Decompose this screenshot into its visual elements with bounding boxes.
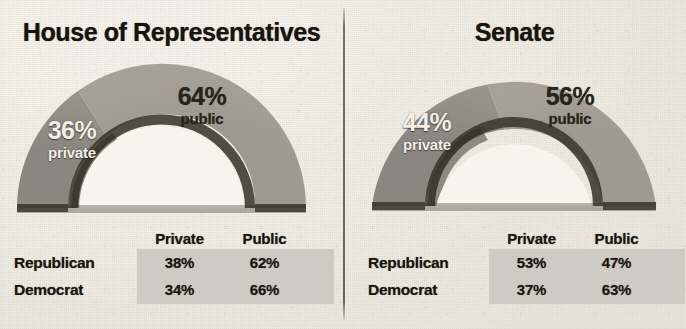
table-header-row-house: Private Public xyxy=(14,228,334,249)
table-cell-republican-private-house: 38% xyxy=(137,254,222,271)
table-cell-republican-public-senate: 47% xyxy=(574,254,659,271)
table-row-label-democrat-house: Democrat xyxy=(14,281,137,299)
table-cell-democrat-public-senate: 63% xyxy=(574,281,659,298)
data-table-house: Private Public Republican 38% 62% Democr… xyxy=(14,228,334,303)
table-cell-republican-public-house: 62% xyxy=(222,254,307,271)
table-cell-democrat-private-house: 34% xyxy=(137,281,222,298)
semicircle-donut-house xyxy=(13,63,310,213)
data-table-senate: Private Public Republican 53% 47% Democr… xyxy=(368,228,686,303)
table-header-private-senate: Private xyxy=(489,230,574,247)
chart-title-house: House of Representatives xyxy=(0,18,343,47)
table-cell-republican-private-senate: 53% xyxy=(489,254,574,271)
table-row-label-republican-house: Republican xyxy=(14,254,137,272)
table-cell-democrat-private-senate: 37% xyxy=(489,281,574,298)
table-row-label-republican-senate: Republican xyxy=(368,254,489,272)
semicircle-donut-senate xyxy=(368,63,660,211)
table-header-row-senate: Private Public xyxy=(368,228,686,249)
table-header-private-house: Private xyxy=(137,230,222,247)
table-row-label-democrat-senate: Democrat xyxy=(368,281,489,299)
table-row: Democrat 37% 63% xyxy=(368,276,686,303)
chart-panel-house: House of Representatives xyxy=(0,0,343,329)
table-row: Republican 38% 62% xyxy=(14,249,334,276)
table-cell-democrat-public-house: 66% xyxy=(222,281,307,298)
table-header-public-senate: Public xyxy=(574,230,659,247)
table-row: Democrat 34% 66% xyxy=(14,276,334,303)
table-row: Republican 53% 47% xyxy=(368,249,686,276)
table-header-public-house: Public xyxy=(222,230,307,247)
chart-title-senate: Senate xyxy=(343,18,686,47)
